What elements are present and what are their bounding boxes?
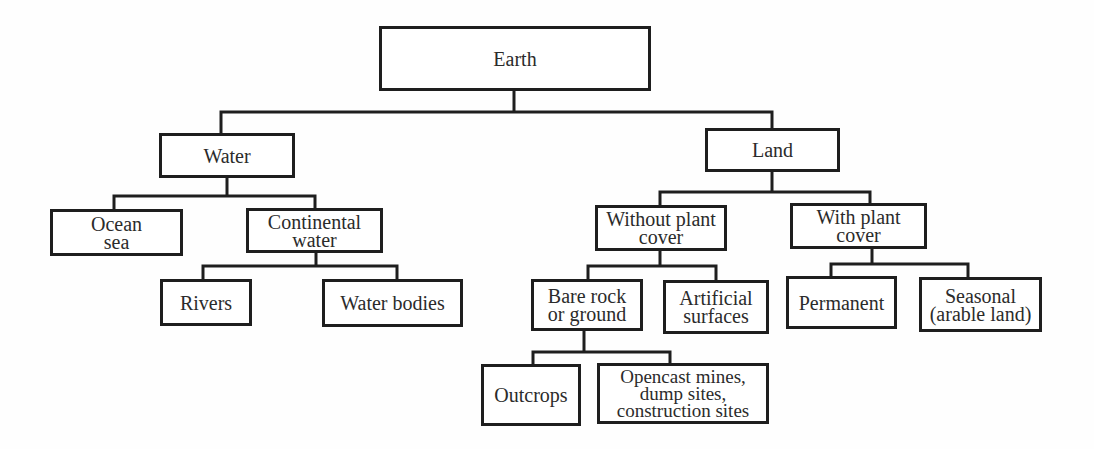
node-with-plant-cover: With plant cover — [790, 203, 927, 249]
connector-land-children — [660, 171, 870, 205]
connector-without-children — [588, 250, 716, 280]
node-outcrops: Outcrops — [481, 364, 581, 426]
node-bare-rock-or-ground: Bare rock or ground — [531, 279, 643, 331]
connector-with-children — [831, 248, 968, 277]
node-water-bodies: Water bodies — [322, 279, 463, 327]
node-land: Land — [705, 128, 840, 172]
node-seasonal: Seasonal (arable land) — [919, 277, 1042, 332]
node-rivers: Rivers — [160, 279, 252, 326]
connector-earth-children — [221, 90, 772, 133]
connector-continental-children — [203, 252, 397, 279]
node-permanent: Permanent — [786, 276, 897, 329]
connector-bare-rock-children — [533, 330, 670, 364]
land-cover-hierarchy-diagram: Earth Water Land Ocean sea Continental w… — [0, 0, 1094, 449]
node-opencast-mines: Opencast mines, dump sites, construction… — [597, 363, 769, 424]
node-ocean-sea: Ocean sea — [50, 209, 183, 256]
node-continental-water: Continental water — [246, 208, 383, 253]
node-without-plant-cover: Without plant cover — [595, 205, 727, 251]
node-earth: Earth — [379, 26, 651, 91]
node-artificial-surfaces: Artificial surfaces — [663, 280, 769, 334]
node-water: Water — [159, 133, 295, 178]
connector-water-children — [114, 177, 315, 209]
